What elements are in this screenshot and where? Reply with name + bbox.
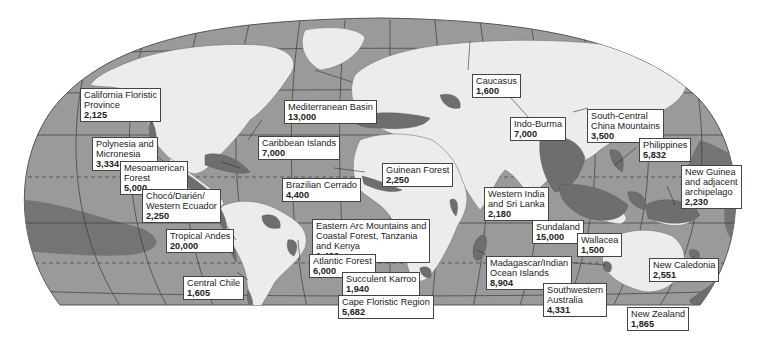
hotspot-name: Mesoamerican Forest: [124, 163, 184, 183]
hotspot-count: 15,000: [536, 232, 580, 242]
hotspot-name: South-Central China Mountains: [591, 111, 660, 131]
label-indo-burma: Indo-Burma 7,000: [510, 117, 566, 141]
hotspot-name: Western India and Sri Lanka: [488, 189, 545, 209]
hotspot-name: Chocó/Darién/ Western Ecuador: [146, 191, 217, 211]
hotspot-count: 5,682: [342, 307, 430, 317]
label-central-chile: Central Chile 1,605: [183, 276, 244, 300]
label-new-caledonia: New Caledonia 2,551: [649, 258, 719, 282]
hotspot-name: Caucasus: [476, 76, 517, 86]
hotspot-count: 2,230: [685, 197, 738, 207]
hotspot-name: Eastern Arc Mountains and Coastal Forest…: [316, 221, 426, 251]
label-choco-darien: Chocó/Darién/ Western Ecuador 2,250: [142, 189, 221, 223]
label-new-guinea: New Guinea and adjacent archipelago 2,23…: [681, 165, 742, 209]
hotspot-count: 7,000: [262, 148, 336, 158]
hotspot-name: Sundaland: [536, 222, 580, 232]
label-succulent-karroo: Succulent Karroo 1,940: [342, 272, 420, 296]
hotspot-name: New Caledonia: [653, 260, 715, 270]
hotspot-name: Brazilian Cerrado: [286, 180, 357, 190]
hotspot-name: Mediterranean Basin: [288, 102, 373, 112]
label-caribbean-islands: Caribbean Islands 7,000: [258, 136, 340, 160]
label-caucasus: Caucasus 1,600: [472, 74, 521, 98]
label-southwestern-australia: Southwestern Australia 4,331: [543, 283, 607, 317]
hotspot-name: Atlantic Forest: [313, 256, 372, 266]
hotspot-count: 5,832: [643, 150, 687, 160]
hotspot-name: New Zealand: [631, 309, 685, 319]
hotspot-name: California Floristic Province: [84, 90, 157, 110]
hotspot-count: 1,605: [187, 288, 240, 298]
hotspot-count: 13,000: [288, 112, 373, 122]
hotspot-count: 2,551: [653, 270, 715, 280]
label-tropical-andes: Tropical Andes 20,000: [166, 229, 234, 253]
hotspot-count: 2,250: [386, 175, 449, 185]
label-wallacea: Wallacea 1,500: [577, 233, 622, 257]
hotspot-count: 1,500: [581, 245, 618, 255]
hotspot-name: Guinean Forest: [386, 165, 449, 175]
hotspot-name: Wallacea: [581, 235, 618, 245]
label-guinean-forest: Guinean Forest 2,250: [382, 163, 453, 187]
label-cape-floristic: Cape Floristic Region 5,682: [338, 295, 434, 319]
label-mediterranean-basin: Mediterranean Basin 13,000: [284, 100, 377, 124]
hotspot-count: 20,000: [170, 241, 230, 251]
hotspot-name: Indo-Burma: [514, 119, 562, 129]
hotspot-name: Tropical Andes: [170, 231, 230, 241]
hotspot-count: 1,600: [476, 86, 517, 96]
label-western-india: Western India and Sri Lanka 2,180: [484, 187, 549, 221]
hotspot-count: 2,125: [84, 110, 157, 120]
hotspot-count: 4,331: [547, 305, 603, 315]
label-california-floristic: California Floristic Province 2,125: [80, 88, 161, 122]
hotspot-name: New Guinea and adjacent archipelago: [685, 167, 738, 197]
hotspot-count: 4,400: [286, 190, 357, 200]
hotspot-name: Caribbean Islands: [262, 138, 336, 148]
hotspot-name: Polynesia and Micronesia: [96, 139, 154, 159]
hotspot-count: 2,180: [488, 209, 545, 219]
hotspot-count: 1,940: [346, 284, 416, 294]
label-philippines: Philippines 5,832: [639, 138, 691, 162]
hotspot-count: 2,250: [146, 211, 217, 221]
hotspot-name: Succulent Karroo: [346, 274, 416, 284]
label-brazilian-cerrado: Brazilian Cerrado 4,400: [282, 178, 361, 202]
hotspot-name: Cape Floristic Region: [342, 297, 430, 307]
hotspot-count: 7,000: [514, 129, 562, 139]
hotspot-name: Philippines: [643, 140, 687, 150]
hotspot-name: Central Chile: [187, 278, 240, 288]
label-new-zealand: New Zealand 1,865: [627, 307, 689, 331]
hotspot-name: Madagascar/Indian Ocean Islands: [490, 258, 568, 278]
hotspot-name: Southwestern Australia: [547, 285, 603, 305]
hotspot-count: 1,865: [631, 319, 685, 329]
